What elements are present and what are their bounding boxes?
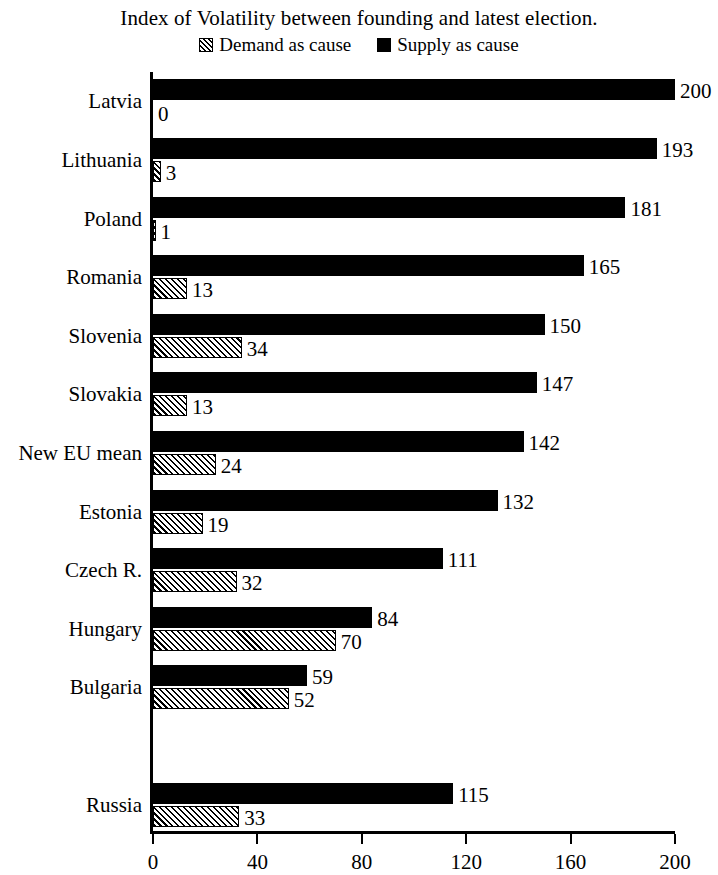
category-label: Romania	[0, 265, 142, 289]
bar-value-demand: 3	[161, 162, 177, 184]
category-label: Lithuania	[0, 148, 142, 172]
bar-value-demand: 13	[187, 279, 213, 301]
bar-demand[interactable]	[153, 395, 187, 416]
bar-value-demand: 70	[336, 631, 362, 653]
bar-value-supply: 147	[537, 373, 574, 395]
bar-value-supply: 132	[498, 491, 535, 513]
x-axis-tick-labels: 04080120160200	[0, 850, 718, 875]
category-label: Slovenia	[0, 324, 142, 348]
x-axis-tick	[361, 834, 363, 844]
bar-group: Estonia13219	[153, 482, 675, 541]
bar-supply[interactable]	[153, 607, 372, 628]
category-label: Bulgaria	[0, 675, 142, 699]
bar-group-empty	[153, 717, 675, 776]
bar-value-demand: 34	[242, 338, 268, 360]
bar-value-supply: 142	[524, 432, 561, 454]
chart-legend: Demand as cause Supply as cause	[0, 33, 718, 56]
bar-supply[interactable]	[153, 490, 498, 511]
chart-title: Index of Volatility between founding and…	[0, 6, 718, 31]
bar-group: Romania16513	[153, 248, 675, 307]
legend-label-supply: Supply as cause	[397, 33, 518, 56]
x-axis-tick	[465, 834, 467, 844]
bar-supply[interactable]	[153, 431, 524, 452]
bar-supply[interactable]	[153, 665, 307, 686]
category-label: Poland	[0, 207, 142, 231]
legend-item-supply: Supply as cause	[377, 33, 518, 56]
bar-demand[interactable]	[153, 806, 239, 827]
bar-value-demand: 24	[216, 455, 242, 477]
category-label: Hungary	[0, 617, 142, 641]
x-axis-tick	[570, 834, 572, 844]
bar-value-demand: 0	[153, 103, 169, 125]
category-label: Czech R.	[0, 558, 142, 582]
bar-value-supply: 193	[657, 139, 694, 161]
bar-supply[interactable]	[153, 372, 537, 393]
bar-demand[interactable]	[153, 278, 187, 299]
bar-group: Latvia2000	[153, 72, 675, 131]
bar-value-supply: 115	[453, 784, 489, 806]
bar-value-supply: 84	[372, 608, 398, 630]
bar-demand[interactable]	[153, 630, 336, 651]
bar-group: Czech R.11132	[153, 541, 675, 600]
plot-area: Latvia2000Lithuania1933Poland1811Romania…	[153, 72, 675, 834]
x-axis-tick	[256, 834, 258, 844]
bar-value-supply: 111	[443, 549, 478, 571]
x-axis-tick	[674, 834, 676, 844]
legend-label-demand: Demand as cause	[219, 33, 351, 56]
bar-demand[interactable]	[153, 337, 242, 358]
category-label: Latvia	[0, 89, 142, 113]
bar-value-demand: 13	[187, 396, 213, 418]
bar-group: Lithuania1933	[153, 131, 675, 190]
bar-supply[interactable]	[153, 255, 584, 276]
x-axis-tick-label: 160	[555, 850, 587, 874]
bar-supply[interactable]	[153, 79, 675, 100]
bar-value-supply: 165	[584, 256, 621, 278]
bar-demand[interactable]	[153, 571, 237, 592]
x-axis-tick-label: 40	[247, 850, 268, 874]
bar-value-demand: 33	[239, 807, 265, 829]
category-label: Slovakia	[0, 382, 142, 406]
bar-group: Poland1811	[153, 189, 675, 248]
bar-supply[interactable]	[153, 138, 657, 159]
bar-value-demand: 32	[237, 572, 263, 594]
category-label: Estonia	[0, 500, 142, 524]
category-label: Russia	[0, 793, 142, 817]
bar-group: New EU mean14224	[153, 424, 675, 483]
bar-supply[interactable]	[153, 783, 453, 804]
hatch-square-icon	[199, 38, 213, 52]
bar-group: Hungary8470	[153, 600, 675, 659]
bar-value-supply: 59	[307, 666, 333, 688]
bar-supply[interactable]	[153, 548, 443, 569]
chart-plot: Latvia2000Lithuania1933Poland1811Romania…	[0, 68, 718, 875]
x-axis-tick-label: 0	[148, 850, 159, 874]
bar-supply[interactable]	[153, 197, 625, 218]
x-axis-tick	[152, 834, 154, 844]
bar-demand[interactable]	[153, 688, 289, 709]
solid-square-icon	[377, 38, 391, 52]
bar-group: Bulgaria5952	[153, 658, 675, 717]
bar-value-demand: 1	[156, 221, 172, 243]
bar-supply[interactable]	[153, 314, 545, 335]
x-axis-tick-label: 120	[450, 850, 482, 874]
bar-value-supply: 181	[625, 198, 662, 220]
bar-demand[interactable]	[153, 161, 161, 182]
bar-demand[interactable]	[153, 454, 216, 475]
x-axis-tick-label: 80	[351, 850, 372, 874]
bar-group: Slovenia15034	[153, 306, 675, 365]
bar-group: Russia11533	[153, 775, 675, 834]
chart-header: Index of Volatility between founding and…	[0, 0, 718, 56]
bar-value-demand: 52	[289, 689, 315, 711]
bar-value-supply: 200	[675, 80, 712, 102]
bar-value-supply: 150	[545, 315, 582, 337]
bar-value-demand: 19	[203, 514, 229, 536]
bar-demand[interactable]	[153, 513, 203, 534]
legend-item-demand: Demand as cause	[199, 33, 351, 56]
bar-group: Slovakia14713	[153, 365, 675, 424]
category-label: New EU mean	[0, 441, 142, 465]
x-axis-tick-label: 200	[659, 850, 691, 874]
